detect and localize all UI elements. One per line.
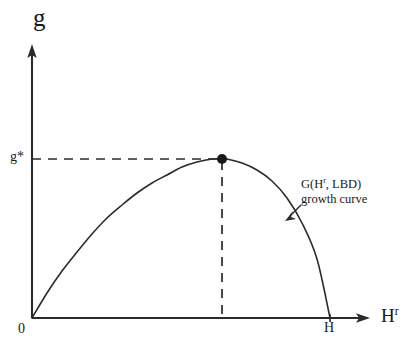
origin-label: 0 <box>18 322 25 336</box>
curve-annotation-line2: growth curve <box>301 192 367 207</box>
x-axis-title-superscript: r <box>395 305 399 318</box>
x-marker-label-H: H <box>324 321 334 335</box>
curve-annotation-prefix: G(H <box>301 177 323 191</box>
x-axis-title-base: H <box>381 305 395 326</box>
x-axis-title: Hr <box>381 306 399 325</box>
curve-annotation-line1: G(Hr, LBD) <box>301 177 367 192</box>
curve-annotation-suffix: , LBD) <box>326 177 361 191</box>
curve-annotation: G(Hr, LBD) growth curve <box>301 177 367 208</box>
y-axis-title: g <box>33 5 46 30</box>
growth-curve-figure: g Hr 0 g* H G(Hr, LBD) growth curve <box>0 0 420 355</box>
y-marker-label-gstar: g* <box>10 150 24 164</box>
peak-point-marker <box>217 154 227 164</box>
